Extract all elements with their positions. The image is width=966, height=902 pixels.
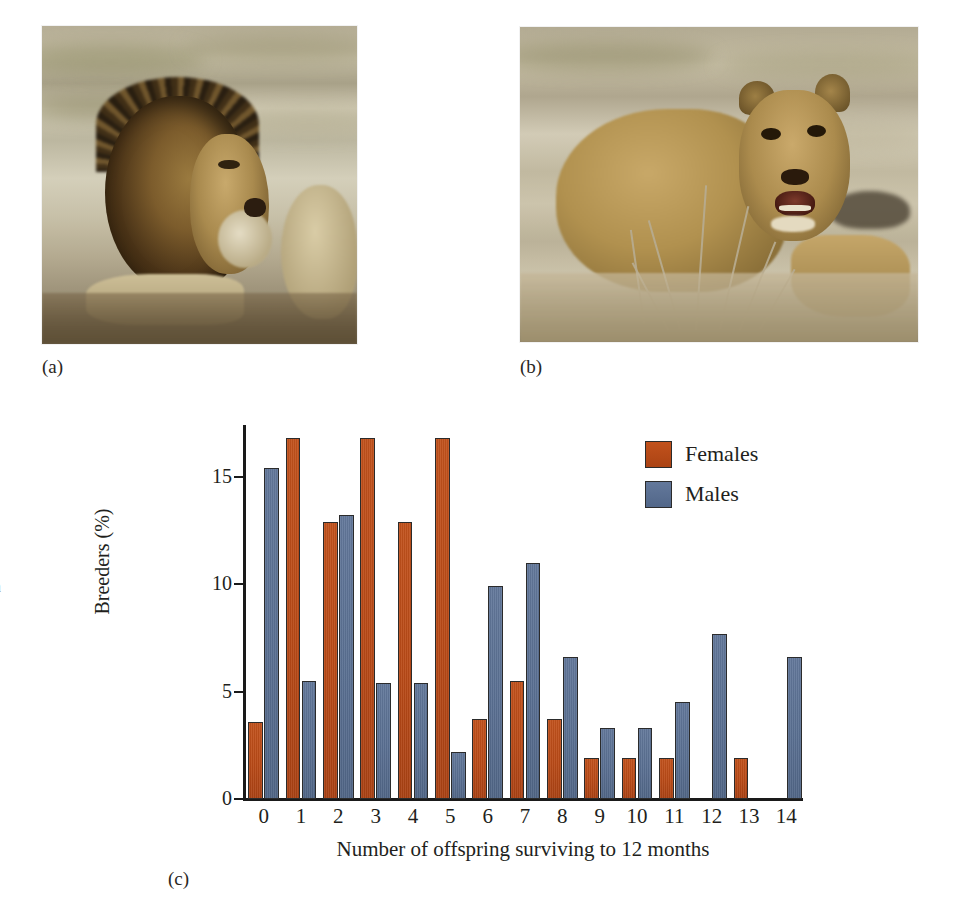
x-axis-label-5: 5	[445, 804, 456, 829]
lion-muzzle	[218, 210, 272, 267]
x-axis-label-1: 1	[296, 804, 307, 829]
bar-females-6	[472, 719, 487, 799]
bar-females-1	[286, 438, 301, 799]
x-axis-label-4: 4	[408, 804, 419, 829]
x-axis-label-0: 0	[258, 804, 269, 829]
bar-females-4	[398, 522, 413, 799]
bar-females-11	[659, 758, 674, 799]
legend-label-females: Females	[685, 441, 758, 467]
lioness-photo	[520, 27, 918, 342]
legend-swatch-males-icon	[645, 481, 672, 508]
bar-males-4	[414, 683, 429, 799]
bar-females-2	[323, 522, 338, 799]
bar-males-2	[339, 515, 354, 799]
legend-item-males[interactable]: Males	[645, 480, 758, 508]
bar-males-0	[264, 468, 279, 799]
lioness-teeth	[779, 205, 811, 211]
bar-males-9	[600, 728, 615, 799]
x-axis-label-11: 11	[664, 804, 684, 829]
x-axis-label-14: 14	[776, 804, 797, 829]
x-axis-label-13: 13	[739, 804, 760, 829]
bar-males-5	[451, 752, 466, 799]
lion-nose	[244, 198, 266, 217]
bar-males-11	[675, 702, 690, 799]
y-axis-tick-label: 0	[222, 788, 232, 808]
subfigure-label-a: (a)	[42, 356, 63, 378]
y-axis-tick	[234, 476, 243, 478]
bar-females-5	[435, 438, 450, 799]
bar-males-7	[526, 563, 541, 799]
x-axis-label-6: 6	[482, 804, 493, 829]
foreground-dirt	[42, 293, 357, 344]
x-axis-label-2: 2	[333, 804, 344, 829]
bar-females-7	[510, 681, 525, 799]
foreground-sand	[520, 273, 918, 342]
x-axis-label-12: 12	[701, 804, 722, 829]
subfigure-label-b: (b)	[520, 356, 542, 378]
y-axis-tick-label: 5	[222, 681, 232, 701]
y-axis-title: Breeders (%)	[91, 442, 114, 682]
background-streak	[184, 36, 357, 61]
y-axis-tick	[234, 798, 243, 800]
legend-swatch-females-icon	[645, 441, 672, 468]
legend-label-males: Males	[685, 481, 739, 507]
bar-males-6	[488, 586, 503, 799]
bar-males-8	[563, 657, 578, 799]
bar-females-3	[360, 438, 375, 799]
x-axis-label-10: 10	[627, 804, 648, 829]
x-axis-label-3: 3	[370, 804, 381, 829]
lioness-nose	[781, 169, 809, 185]
bar-females-10	[622, 758, 637, 799]
y-axis-tick-label: 15	[212, 466, 232, 486]
y-axis-tick-label: 10	[212, 573, 232, 593]
bar-males-1	[302, 681, 317, 799]
bar-males-3	[376, 683, 391, 799]
bar-females-9	[584, 758, 599, 799]
lioness-chin	[771, 216, 815, 232]
breeding-success-bar-chart: 051015 01234567891011121314 Breeders (%)…	[0, 400, 966, 902]
bar-males-14	[787, 657, 802, 799]
bar-females-8	[547, 719, 562, 799]
male-lion-photo	[42, 26, 357, 344]
x-axis-label-7: 7	[520, 804, 531, 829]
y-axis-tick	[234, 691, 243, 693]
bar-females-13	[734, 758, 749, 799]
bar-females-0	[248, 722, 263, 799]
legend-item-females[interactable]: Females	[645, 440, 758, 468]
bar-males-10	[638, 728, 653, 799]
bar-males-12	[712, 634, 727, 800]
x-axis-title: Number of offspring surviving to 12 mont…	[243, 837, 803, 862]
x-axis-label-8: 8	[557, 804, 568, 829]
lioness-eye-left	[761, 128, 781, 141]
lioness-open-mouth	[775, 191, 815, 216]
chart-legend: Females Males	[645, 440, 758, 520]
x-axis-label-9: 9	[594, 804, 605, 829]
y-axis-tick	[234, 583, 243, 585]
